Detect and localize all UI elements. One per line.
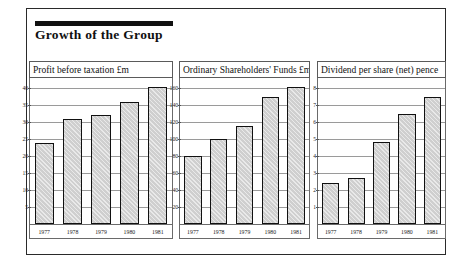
bar bbox=[348, 178, 365, 224]
y-tick-mark bbox=[28, 173, 31, 174]
chart-panel-dividend-per-share: Dividend per share (net) pence 12345678 … bbox=[317, 61, 446, 243]
page-root: Growth of the Group Profit before taxati… bbox=[0, 0, 466, 271]
chart-panel-profit-before-taxation: Profit before taxation £m 51015202530354… bbox=[29, 61, 173, 243]
bar bbox=[63, 119, 82, 224]
y-tick-label: 2 bbox=[301, 187, 316, 193]
x-axis-year-label: 1981 bbox=[144, 228, 172, 236]
y-tick-mark bbox=[316, 105, 319, 106]
y-tick-mark bbox=[316, 190, 319, 191]
x-axis-year-label: 1978 bbox=[343, 228, 368, 236]
bar bbox=[398, 114, 415, 224]
bar bbox=[35, 143, 54, 225]
bar bbox=[210, 139, 228, 224]
bar bbox=[184, 156, 202, 224]
bar bbox=[322, 183, 339, 224]
x-axis-year-label: 1980 bbox=[257, 228, 283, 236]
x-axis-year-label: 1977 bbox=[318, 228, 343, 236]
y-tick-mark bbox=[178, 88, 181, 89]
bar bbox=[91, 115, 110, 224]
y-tick-label: 4 bbox=[301, 153, 316, 159]
y-tick-mark bbox=[28, 105, 31, 106]
y-tick-mark bbox=[28, 156, 31, 157]
y-tick-label: 40 bbox=[163, 187, 178, 193]
x-axis-year-label: 1980 bbox=[115, 228, 143, 236]
chart-title: Dividend per share (net) pence bbox=[321, 63, 438, 77]
chart-title-box: Ordinary Shareholders' Funds £m bbox=[179, 61, 310, 78]
x-axis-year-label: 1981 bbox=[420, 228, 445, 236]
chart-x-axis-labels: 19771978197919801981 bbox=[317, 224, 446, 239]
chart-title: Ordinary Shareholders' Funds £m bbox=[183, 63, 310, 77]
y-tick-label: 30 bbox=[13, 119, 28, 125]
y-tick-mark bbox=[178, 139, 181, 140]
chart-grid-and-bars: 12345678 bbox=[318, 78, 445, 224]
gridline bbox=[318, 88, 445, 89]
y-tick-label: 140 bbox=[163, 102, 178, 108]
y-tick-mark bbox=[28, 139, 31, 140]
bar bbox=[262, 97, 280, 224]
y-tick-mark bbox=[316, 207, 319, 208]
y-tick-label: 5 bbox=[13, 204, 28, 210]
chart-x-axis-labels: 19771978197919801981 bbox=[29, 224, 173, 239]
x-axis-year-label: 1977 bbox=[180, 228, 206, 236]
chart-x-axis-labels: 19771978197919801981 bbox=[179, 224, 310, 239]
y-tick-label: 15 bbox=[13, 170, 28, 176]
chart-plot-area: 12345678 bbox=[317, 78, 446, 224]
chart-grid-and-bars: 510152025303540 bbox=[30, 78, 172, 224]
chart-plot-area: 510152025303540 bbox=[29, 78, 173, 224]
y-tick-mark bbox=[178, 173, 181, 174]
x-axis-year-label: 1979 bbox=[87, 228, 115, 236]
y-tick-mark bbox=[28, 122, 31, 123]
y-tick-label: 7 bbox=[301, 102, 316, 108]
y-tick-label: 40 bbox=[13, 85, 28, 91]
x-axis-year-label: 1977 bbox=[30, 228, 58, 236]
bar bbox=[424, 97, 441, 224]
y-tick-label: 8 bbox=[301, 85, 316, 91]
y-tick-mark bbox=[316, 173, 319, 174]
x-axis-year-label: 1978 bbox=[206, 228, 232, 236]
y-tick-mark bbox=[28, 88, 31, 89]
heading-rule bbox=[35, 21, 173, 26]
chart-title: Profit before taxation £m bbox=[33, 63, 129, 77]
y-tick-label: 100 bbox=[163, 136, 178, 142]
y-tick-label: 160 bbox=[163, 85, 178, 91]
y-tick-label: 35 bbox=[13, 102, 28, 108]
page-title: Growth of the Group bbox=[35, 27, 163, 43]
y-tick-label: 120 bbox=[163, 119, 178, 125]
y-tick-label: 20 bbox=[163, 204, 178, 210]
bar bbox=[373, 142, 390, 224]
chart-panel-ordinary-shareholders-funds: Ordinary Shareholders' Funds £m 20406080… bbox=[179, 61, 310, 243]
y-tick-label: 80 bbox=[163, 153, 178, 159]
chart-title-box: Dividend per share (net) pence bbox=[317, 61, 446, 78]
y-tick-mark bbox=[28, 207, 31, 208]
y-tick-label: 1 bbox=[301, 204, 316, 210]
y-tick-label: 5 bbox=[301, 136, 316, 142]
chart-plot-area: 20406080100120140160 bbox=[179, 78, 310, 224]
y-tick-mark bbox=[316, 88, 319, 89]
y-tick-mark bbox=[178, 105, 181, 106]
y-tick-mark bbox=[316, 156, 319, 157]
y-tick-mark bbox=[178, 156, 181, 157]
chart-grid-and-bars: 20406080100120140160 bbox=[180, 78, 309, 224]
bar bbox=[236, 126, 254, 224]
y-tick-label: 6 bbox=[301, 119, 316, 125]
y-tick-mark bbox=[316, 139, 319, 140]
y-tick-mark bbox=[178, 207, 181, 208]
x-axis-year-label: 1979 bbox=[369, 228, 394, 236]
y-tick-mark bbox=[28, 190, 31, 191]
y-tick-mark bbox=[178, 122, 181, 123]
y-tick-label: 3 bbox=[301, 170, 316, 176]
y-tick-mark bbox=[178, 190, 181, 191]
x-axis-year-label: 1980 bbox=[394, 228, 419, 236]
y-tick-label: 60 bbox=[163, 170, 178, 176]
y-tick-label: 20 bbox=[13, 153, 28, 159]
x-axis-year-label: 1979 bbox=[232, 228, 258, 236]
y-tick-label: 10 bbox=[13, 187, 28, 193]
x-axis-year-label: 1981 bbox=[283, 228, 309, 236]
bar bbox=[120, 102, 139, 224]
y-tick-mark bbox=[316, 122, 319, 123]
y-tick-label: 25 bbox=[13, 136, 28, 142]
x-axis-year-label: 1978 bbox=[58, 228, 86, 236]
chart-title-box: Profit before taxation £m bbox=[29, 61, 173, 78]
